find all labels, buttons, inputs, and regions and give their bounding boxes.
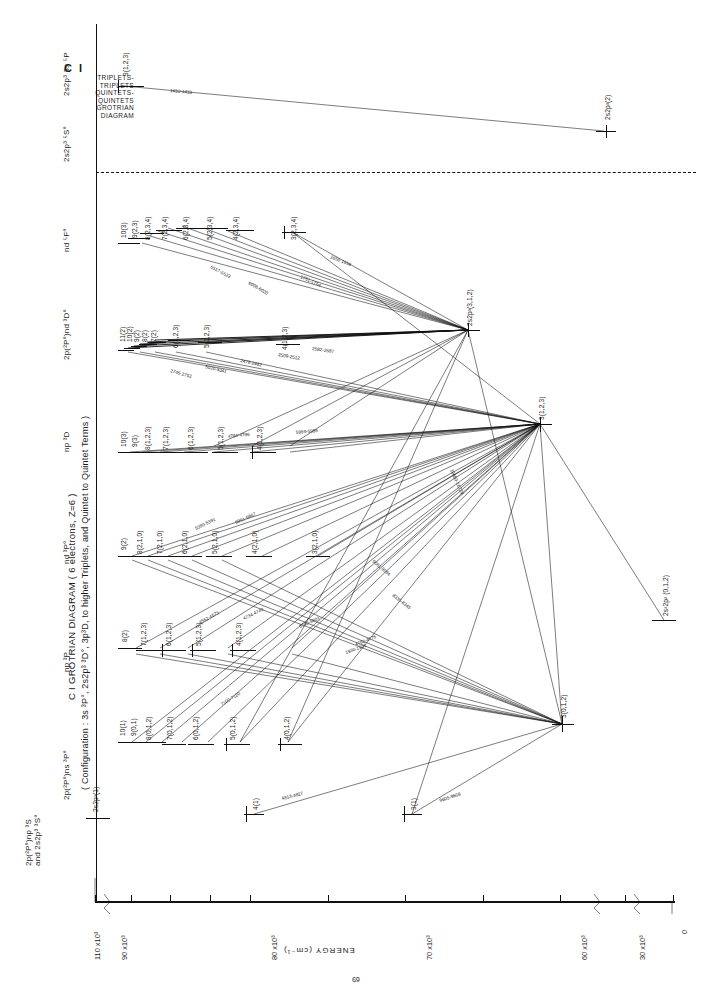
- axis-tick-label: 90 x10³: [120, 935, 129, 960]
- axis-title: ENERGY (cm⁻¹): [283, 946, 355, 955]
- axis-tick-label: 0: [680, 930, 689, 934]
- axis-tick-label: 70 x10³: [425, 935, 434, 960]
- axis-tick-label: 60 x10³: [580, 935, 589, 960]
- axis-tick-label: 110 x10³: [93, 932, 102, 960]
- axis-breaks-layer: [0, 0, 716, 996]
- grotrian-diagram: C I TRIPLETS- TRIPLETS QUINTETS- QUINTET…: [0, 0, 716, 996]
- axis-tick-label: 80 x10³: [270, 935, 279, 960]
- page-number: 69: [352, 976, 360, 983]
- axis-tick-label: 30 x10³: [638, 935, 647, 960]
